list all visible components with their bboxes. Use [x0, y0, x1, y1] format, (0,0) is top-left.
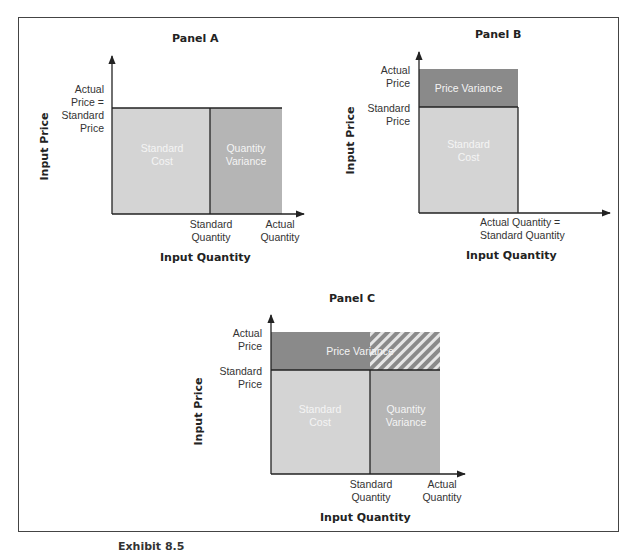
- panel-b-price-variance-label: Price Variance: [419, 82, 518, 95]
- panel-a-y-axis-label: Input Price: [38, 107, 51, 187]
- panel-a-quantity-variance-label: QuantityVariance: [212, 142, 280, 168]
- panel-a-graphic: [112, 56, 304, 214]
- panel-a-x-axis-label: Input Quantity: [160, 251, 251, 264]
- panel-c-y-tick-standard: StandardPrice: [200, 365, 262, 391]
- panel-b-graphic: [419, 52, 610, 213]
- panel-a-x-tick-actual: ActualQuantity: [253, 218, 307, 244]
- panel-b-x-tick: Actual Quantity =Standard Quantity: [480, 216, 590, 242]
- panel-a-y-tick: Actual Price = Standard Price: [50, 83, 104, 135]
- panel-c-quantity-variance-label: QuantityVariance: [372, 403, 440, 429]
- panel-b-x-axis-label: Input Quantity: [466, 249, 557, 262]
- panel-c-price-variance-label: Price Variance: [310, 345, 410, 358]
- panel-c-x-tick-actual: ActualQuantity: [415, 478, 469, 504]
- panel-c-standard-cost-label: StandardCost: [288, 403, 352, 429]
- panel-b-standard-cost-label: StandardCost: [419, 138, 518, 164]
- panel-c-title: Panel C: [329, 292, 375, 305]
- panel-b-title: Panel B: [475, 28, 521, 41]
- panel-a-standard-cost-label: StandardCost: [130, 142, 194, 168]
- panel-b-y-tick-actual: ActualPrice: [350, 64, 410, 90]
- panel-a-title: Panel A: [172, 32, 219, 45]
- panel-c-y-tick-actual: ActualPrice: [200, 327, 262, 353]
- panel-c-x-tick-standard: StandardQuantity: [344, 478, 398, 504]
- panel-a-x-tick-standard: StandardQuantity: [184, 218, 238, 244]
- exhibit-caption: Exhibit 8.5: [118, 540, 184, 553]
- panel-c-graphic: [271, 315, 465, 474]
- panel-b-y-tick-standard: StandardPrice: [350, 102, 410, 128]
- panel-c-x-axis-label: Input Quantity: [320, 511, 411, 524]
